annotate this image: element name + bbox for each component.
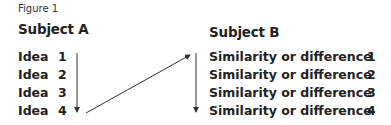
diagonal-arrow-icon	[86, 55, 190, 113]
arrows-layer	[0, 0, 391, 125]
